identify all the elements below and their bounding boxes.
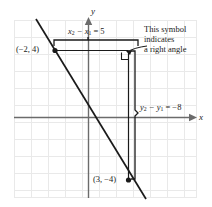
- horizontal-brace: [54, 37, 138, 46]
- measure-y-middle: − y: [147, 102, 161, 112]
- measure-x-suffix: = 5: [91, 26, 104, 36]
- point-marker: [52, 48, 57, 53]
- vertical-brace: [131, 51, 138, 179]
- horizontal-measure-label: x2 − x1 = 5: [68, 27, 105, 37]
- measure-x-middle: − x: [75, 26, 89, 36]
- point-label-second: (3, −4): [93, 175, 116, 185]
- point-marker: [126, 177, 131, 182]
- point-label-first: (−2, 4): [16, 45, 39, 55]
- coordinate-plane-figure: x y (−2, 4) (3, −4) x2 − x1 = 5 y2 − y1 …: [0, 0, 212, 207]
- measure-y-suffix: = −8: [163, 102, 181, 112]
- right-angle-annotation: This symbol indicates a right angle: [144, 25, 186, 54]
- axis-x-arrow: [189, 114, 197, 121]
- annotation-line-3: a right angle: [144, 45, 186, 55]
- vertical-measure-label: y2 − y1 = −8: [140, 103, 181, 113]
- graph-line: [36, 19, 146, 199]
- axis-y-label: y: [91, 6, 95, 16]
- axis-x-label: x: [199, 112, 203, 122]
- right-angle-icon: [122, 53, 129, 60]
